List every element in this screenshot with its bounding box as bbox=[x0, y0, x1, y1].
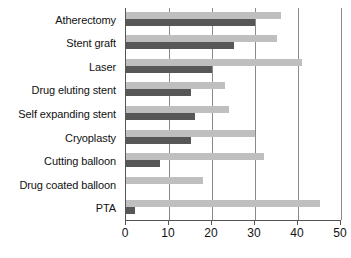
bar-dark bbox=[126, 113, 195, 120]
bar-light bbox=[126, 12, 281, 19]
bar-dark bbox=[126, 19, 255, 26]
gridline-50 bbox=[341, 8, 342, 220]
bar-group bbox=[126, 8, 341, 32]
bar-group bbox=[126, 196, 341, 220]
bar-light bbox=[126, 106, 229, 113]
bar-group bbox=[126, 102, 341, 126]
bar-light bbox=[126, 35, 277, 42]
tick-label-50: 50 bbox=[320, 226, 351, 240]
value-axis: 01020304050 bbox=[125, 220, 340, 250]
tick-mark-10 bbox=[168, 220, 169, 225]
tick-label-30: 30 bbox=[234, 226, 274, 240]
bar-group bbox=[126, 79, 341, 103]
tick-mark-0 bbox=[125, 220, 126, 225]
tick-mark-20 bbox=[211, 220, 212, 225]
bar-group bbox=[126, 173, 341, 197]
category-label: Laser bbox=[0, 61, 116, 73]
category-label: Drug eluting stent bbox=[0, 84, 116, 96]
bar-light bbox=[126, 153, 264, 160]
bar-group bbox=[126, 32, 341, 56]
bar-light bbox=[126, 200, 320, 207]
tick-label-20: 20 bbox=[191, 226, 231, 240]
tick-mark-50 bbox=[340, 220, 341, 225]
category-label: PTA bbox=[0, 202, 116, 214]
tick-mark-30 bbox=[254, 220, 255, 225]
category-label: Drug coated balloon bbox=[0, 179, 116, 191]
bar-light bbox=[126, 130, 255, 137]
bar-dark bbox=[126, 160, 160, 167]
bar-group bbox=[126, 149, 341, 173]
bar-group bbox=[126, 55, 341, 79]
bar-light bbox=[126, 82, 225, 89]
category-label: Cryoplasty bbox=[0, 132, 116, 144]
bar-light bbox=[126, 59, 302, 66]
category-label: Stent graft bbox=[0, 37, 116, 49]
tick-mark-40 bbox=[297, 220, 298, 225]
category-label: Atherectomy bbox=[0, 14, 116, 26]
category-label: Cutting balloon bbox=[0, 155, 116, 167]
bar-chart: AtherectomyStent graftLaserDrug eluting … bbox=[0, 0, 351, 258]
bar-dark bbox=[126, 207, 135, 214]
bar-group bbox=[126, 126, 341, 150]
category-label: Self expanding stent bbox=[0, 108, 116, 120]
tick-label-40: 40 bbox=[277, 226, 317, 240]
tick-label-0: 0 bbox=[105, 226, 145, 240]
bar-dark bbox=[126, 89, 191, 96]
bar-dark bbox=[126, 42, 234, 49]
tick-label-10: 10 bbox=[148, 226, 188, 240]
plot-area bbox=[125, 8, 341, 221]
bar-dark bbox=[126, 66, 212, 73]
category-axis: AtherectomyStent graftLaserDrug eluting … bbox=[0, 8, 120, 220]
bar-dark bbox=[126, 137, 191, 144]
bar-light bbox=[126, 177, 203, 184]
